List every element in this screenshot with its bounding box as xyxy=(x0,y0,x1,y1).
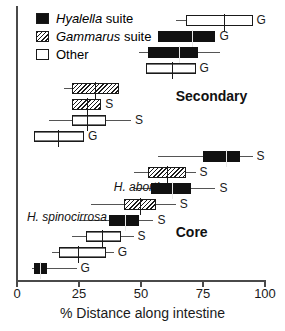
boxplot-row: G xyxy=(0,246,285,260)
boxplot-row xyxy=(0,46,285,60)
box-iqr xyxy=(86,231,121,242)
median-line xyxy=(95,82,96,99)
box-iqr xyxy=(34,263,46,274)
box-iqr xyxy=(72,115,107,126)
row-tag-label: S xyxy=(200,165,208,179)
box-iqr xyxy=(34,131,84,142)
boxplot-row: S xyxy=(0,166,285,180)
box-iqr xyxy=(148,47,198,58)
row-tag-label: S xyxy=(135,113,143,127)
boxplot-row: G xyxy=(0,14,285,28)
box-iqr xyxy=(186,15,253,26)
row-tag-label: G xyxy=(219,29,228,43)
row-tag-label: S xyxy=(157,213,165,227)
row-tag-label: G xyxy=(200,61,209,75)
box-iqr xyxy=(72,83,119,94)
box-iqr xyxy=(203,151,240,162)
box-iqr xyxy=(158,31,215,42)
median-line xyxy=(78,246,79,263)
median-line xyxy=(192,30,193,47)
median-line xyxy=(87,98,88,115)
boxplot-row: G xyxy=(0,262,285,276)
row-tag-label: G xyxy=(118,245,127,259)
box-iqr xyxy=(124,199,156,210)
annotation-core: Core xyxy=(176,224,208,240)
row-tag-label: S xyxy=(105,97,113,111)
x-tick-label-100: 100 xyxy=(245,287,285,301)
x-tick-label-75: 75 xyxy=(183,287,223,301)
annotation-h-spinocirrosa: H. spinocirrosa xyxy=(27,210,107,224)
annotation-h-abortiva: H. abortiva xyxy=(114,180,172,194)
x-tick-label-0: 0 xyxy=(0,287,37,301)
x-axis-title: % Distance along intestine xyxy=(0,305,285,321)
annotation-secondary: Secondary xyxy=(176,88,248,104)
box-iqr xyxy=(59,247,106,258)
x-tick-label-25: 25 xyxy=(59,287,99,301)
median-line xyxy=(125,214,126,231)
boxplot-row: G xyxy=(0,30,285,44)
median-line xyxy=(172,62,173,79)
box-iqr xyxy=(148,167,185,178)
boxplot-row: G xyxy=(0,130,285,144)
median-line xyxy=(226,150,227,167)
x-tick-label-50: 50 xyxy=(121,287,161,301)
row-tag-label: S xyxy=(219,181,227,195)
box-iqr xyxy=(146,63,196,74)
boxplot-row: S xyxy=(0,114,285,128)
box-iqr xyxy=(72,99,102,110)
boxplot-chart: 0255075100 % Distance along intestine Hy… xyxy=(0,0,285,331)
boxplot-row: S xyxy=(0,150,285,164)
row-tag-label: S xyxy=(138,229,146,243)
box-iqr xyxy=(109,215,139,226)
median-line xyxy=(179,46,180,63)
row-tag-label: S xyxy=(257,149,265,163)
row-tag-label: G xyxy=(81,261,90,275)
median-line xyxy=(140,198,141,215)
row-tag-label: G xyxy=(88,129,97,143)
row-tag-label: G xyxy=(257,13,266,27)
median-line xyxy=(102,230,103,247)
boxplot-row: G xyxy=(0,62,285,76)
boxplot-row: S xyxy=(0,230,285,244)
median-line xyxy=(58,130,59,147)
median-line xyxy=(40,262,41,279)
row-tag-label: S xyxy=(180,197,188,211)
